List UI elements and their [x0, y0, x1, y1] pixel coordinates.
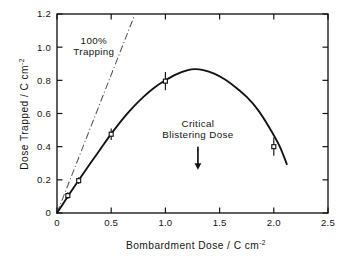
x-axis-title: Bombardment Dose / C cm-2: [126, 239, 266, 251]
critical-label-line1: Critical: [182, 118, 215, 129]
data-point-marker: [66, 194, 70, 198]
y-tick-label: 0.8: [37, 75, 51, 86]
data-point-marker: [109, 132, 113, 136]
y-tick-label: 0.6: [37, 108, 51, 119]
annotation-critical-blistering: Critical Blistering Dose: [162, 118, 233, 170]
y-tick-label: 1.0: [37, 42, 51, 53]
x-tick-label: 0.5: [104, 217, 118, 228]
x-tick-label: 2.0: [267, 217, 281, 228]
x-tick-label: 1.0: [158, 217, 172, 228]
data-point-marker: [77, 179, 81, 183]
y-tick-label: 0.2: [37, 174, 51, 185]
data-point-marker: [163, 79, 167, 83]
y-tick-label: 0.4: [37, 141, 51, 152]
x-tick-label: 0: [54, 217, 60, 228]
y-tick-label: 1.2: [37, 8, 51, 19]
trapping-label-line1: 100%: [81, 35, 107, 46]
chart-svg: 00.51.01.52.02.5 00.20.40.60.81.01.2 100…: [0, 0, 353, 258]
critical-dose-arrow-head: [195, 163, 202, 170]
y-tick-labels: 00.20.40.60.81.01.2: [37, 8, 51, 218]
chart-figure: 00.51.01.52.02.5 00.20.40.60.81.01.2 100…: [0, 0, 353, 258]
x-tick-label: 1.5: [213, 217, 227, 228]
data-point-marker: [272, 145, 276, 149]
y-tick-label: 0: [45, 207, 51, 218]
x-tick-label: 2.5: [321, 217, 335, 228]
y-axis-title: Dose Trapped / C cm-2: [18, 58, 30, 170]
data-curve: [57, 69, 287, 213]
critical-label-line2: Blistering Dose: [162, 129, 233, 140]
x-tick-labels: 00.51.01.52.02.5: [54, 217, 335, 228]
trapping-label-line2: Trapping: [73, 46, 114, 57]
annotation-trapping: 100% Trapping: [73, 35, 114, 58]
